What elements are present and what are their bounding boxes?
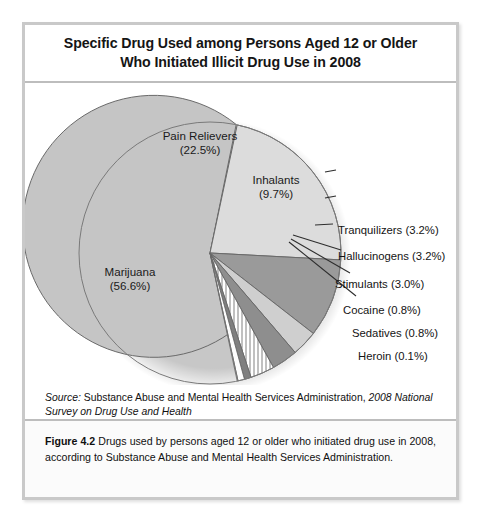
page-title: Specific Drug Used among Persons Aged 12… bbox=[50, 34, 431, 72]
chart-title-line2: Who Initiated Illicit Drug Use in 2008 bbox=[64, 53, 417, 72]
source-label: Source: bbox=[45, 392, 81, 403]
callout-label-stimulants: Stimulants (3.0%) bbox=[335, 279, 424, 290]
callout-label-hallucinogens: Hallucinogens (3.2%) bbox=[338, 251, 445, 262]
leader-line-tranquilizers bbox=[325, 170, 336, 172]
source-body: Substance Abuse and Mental Health Servic… bbox=[81, 392, 369, 403]
figure-caption: Figure 4.2 Drugs used by persons aged 12… bbox=[25, 421, 456, 466]
callout-label-heroin: Heroin (0.1%) bbox=[358, 351, 428, 362]
figure-caption-text: Drugs used by persons aged 12 or older w… bbox=[45, 435, 436, 463]
figure-number: Figure 4.2 bbox=[45, 435, 95, 447]
chart-title-line1: Specific Drug Used among Persons Aged 12… bbox=[64, 35, 417, 51]
callout-label-sedatives: Sedatives (0.8%) bbox=[352, 328, 438, 339]
callout-label-tranquilizers: Tranquilizers (3.2%) bbox=[338, 225, 439, 236]
figure-card: Specific Drug Used among Persons Aged 12… bbox=[22, 22, 459, 500]
figure-caption-block: Figure 4.2 Drugs used by persons aged 12… bbox=[25, 419, 456, 497]
chart-title-block: Specific Drug Used among Persons Aged 12… bbox=[25, 25, 456, 83]
callout-label-cocaine: Cocaine (0.8%) bbox=[343, 305, 421, 316]
pie-chart: Marijuana 56.6% Pain Relievers 22.5% Inh… bbox=[25, 83, 456, 385]
source-citation: Source: Substance Abuse and Mental Healt… bbox=[45, 391, 443, 419]
